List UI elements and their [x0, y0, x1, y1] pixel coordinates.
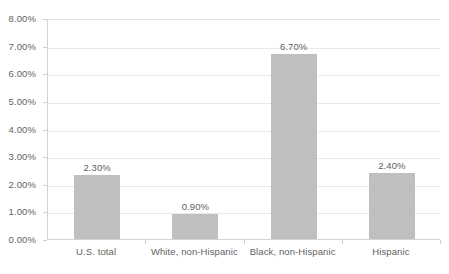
bar-value-label: 0.90%: [182, 201, 209, 212]
x-axis: U.S. totalWhite, non-HispanicBlack, non-…: [47, 243, 440, 265]
y-axis-tick-label: 3.00%: [9, 152, 36, 162]
y-axis-tick-mark: [43, 74, 47, 75]
y-axis-tick-label: 0.00%: [9, 235, 36, 245]
y-axis-tick-mark: [43, 157, 47, 158]
y-axis-tick-label: 4.00%: [9, 125, 36, 135]
y-axis-tick-mark: [43, 240, 47, 241]
x-axis-tick-label: Hispanic: [342, 246, 440, 258]
bar-slot: 6.70%: [245, 20, 343, 239]
bar-value-label: 2.30%: [83, 162, 110, 173]
plot-area: 2.30%0.90%6.70%2.40%: [47, 19, 440, 240]
x-axis-tick-mark: [440, 240, 441, 244]
y-axis-tick-label: 2.00%: [9, 180, 36, 190]
bar[interactable]: [271, 54, 317, 239]
y-axis-tick-mark: [43, 212, 47, 213]
bar-chart: 0.00%1.00%2.00%3.00%4.00%5.00%6.00%7.00%…: [0, 0, 449, 274]
x-axis-tick-mark: [145, 240, 146, 244]
y-axis-tick-label: 6.00%: [9, 69, 36, 79]
x-axis-tick-mark: [342, 240, 343, 244]
bar-slot: 2.30%: [48, 20, 146, 239]
bar-slot: 0.90%: [146, 20, 244, 239]
y-axis-tick-label: 8.00%: [9, 14, 36, 24]
bar[interactable]: [369, 173, 415, 239]
bar-value-label: 6.70%: [280, 41, 307, 52]
x-axis-tick-mark: [244, 240, 245, 244]
y-axis-tick-mark: [43, 102, 47, 103]
y-axis-tick-label: 5.00%: [9, 97, 36, 107]
y-axis-tick-mark: [43, 130, 47, 131]
y-axis-tick-label: 7.00%: [9, 42, 36, 52]
y-axis-tick-mark: [43, 185, 47, 186]
bar[interactable]: [172, 214, 218, 239]
y-axis-tick-mark: [43, 47, 47, 48]
bar-slot: 2.40%: [343, 20, 441, 239]
bar-value-label: 2.40%: [378, 160, 405, 171]
x-axis-tick-label: U.S. total: [47, 246, 145, 258]
y-axis-tick-mark: [43, 19, 47, 20]
x-axis-tick-label: White, non-Hispanic: [145, 246, 243, 258]
y-axis-tick-label: 1.00%: [9, 207, 36, 217]
x-axis-tick-label: Black, non-Hispanic: [244, 246, 342, 258]
bar[interactable]: [74, 175, 120, 239]
y-axis: 0.00%1.00%2.00%3.00%4.00%5.00%6.00%7.00%…: [0, 0, 42, 274]
